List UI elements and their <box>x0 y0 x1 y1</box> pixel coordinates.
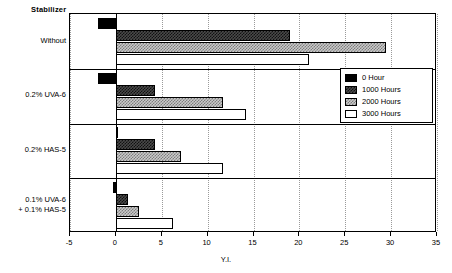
legend-swatch-icon <box>345 74 357 82</box>
bar <box>116 85 155 96</box>
legend-swatch-icon <box>345 86 357 94</box>
category-separator <box>70 178 435 179</box>
category-label: Without <box>0 36 66 46</box>
x-tick-label: 10 <box>192 238 222 247</box>
bar <box>98 18 116 29</box>
x-tick-label: 25 <box>329 238 359 247</box>
legend: 0 Hour1000 Hours2000 Hours3000 Hours <box>340 68 433 123</box>
bar <box>116 30 290 41</box>
gridline <box>437 14 438 231</box>
x-tick-label: -5 <box>54 238 84 247</box>
bar <box>116 127 118 138</box>
bar <box>116 139 155 150</box>
bar <box>113 182 116 193</box>
legend-swatch-icon <box>345 110 357 118</box>
bar <box>116 206 139 217</box>
bar <box>116 109 246 120</box>
x-tick-mark <box>161 232 162 236</box>
legend-item: 1000 Hours <box>345 84 428 95</box>
bar <box>116 97 223 108</box>
legend-label: 2000 Hours <box>362 97 401 106</box>
bar <box>116 42 386 53</box>
chart-title: Stabilizer <box>31 5 66 14</box>
category-label: 0.1% UVA-6 + 0.1% HAS-5 <box>0 195 66 214</box>
x-axis-title: Y.I. <box>0 255 452 264</box>
x-tick-label: 0 <box>100 238 130 247</box>
legend-swatch-icon <box>345 98 357 106</box>
x-tick-mark <box>207 232 208 236</box>
bar <box>116 54 309 65</box>
bar-chart: Stabilizer Without0.2% UVA-60.2% HAS-50.… <box>0 0 452 273</box>
legend-label: 3000 Hours <box>362 109 401 118</box>
x-tick-label: 20 <box>283 238 313 247</box>
x-tick-label: 35 <box>421 238 451 247</box>
x-tick-label: 30 <box>375 238 405 247</box>
bar <box>116 163 223 174</box>
legend-label: 1000 Hours <box>362 85 401 94</box>
bar <box>116 151 181 162</box>
x-tick-mark <box>115 232 116 236</box>
bar <box>98 73 116 84</box>
x-tick-mark <box>253 232 254 236</box>
legend-item: 2000 Hours <box>345 96 428 107</box>
x-tick-label: 5 <box>146 238 176 247</box>
x-tick-mark <box>390 232 391 236</box>
legend-item: 3000 Hours <box>345 108 428 119</box>
legend-item: 0 Hour <box>345 72 428 83</box>
gridline <box>70 14 71 231</box>
category-label: 0.2% HAS-5 <box>0 145 66 155</box>
bar <box>116 194 128 205</box>
category-separator <box>70 124 435 125</box>
x-tick-mark <box>69 232 70 236</box>
x-tick-label: 15 <box>238 238 268 247</box>
bar <box>116 218 173 229</box>
x-tick-mark <box>436 232 437 236</box>
category-label: 0.2% UVA-6 <box>0 90 66 100</box>
x-tick-mark <box>344 232 345 236</box>
x-tick-mark <box>298 232 299 236</box>
legend-label: 0 Hour <box>362 73 385 82</box>
